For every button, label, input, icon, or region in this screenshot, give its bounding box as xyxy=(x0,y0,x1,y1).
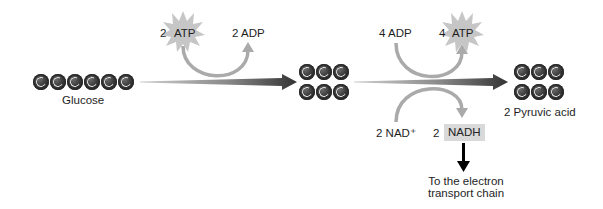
glucose-label: Glucose xyxy=(62,94,104,107)
carbon-symbol xyxy=(69,76,82,89)
carbon-symbol xyxy=(318,86,331,99)
pyruvic-acid-molecule-bottom xyxy=(514,84,564,100)
carbon-atom xyxy=(316,64,332,80)
carbon-atom xyxy=(50,74,66,90)
nadh-curve xyxy=(396,89,468,122)
nadh-count: 2 xyxy=(433,127,439,140)
carbon-symbol xyxy=(35,76,48,89)
carbon-atom xyxy=(514,84,530,100)
carbon-symbol xyxy=(335,86,348,99)
carbon-symbol xyxy=(301,86,314,99)
carbon-atom xyxy=(84,74,100,90)
etc-label-line2: transport chain xyxy=(424,187,508,200)
pyruvic-acid-label: 2 Pyruvic acid xyxy=(504,106,576,119)
atp-payoff-count: 4 xyxy=(439,27,445,40)
adp-input-label: 4 ADP xyxy=(379,27,412,40)
carbon-atom xyxy=(316,84,332,100)
intermediate-molecule-bottom xyxy=(299,84,349,100)
carbon-symbol xyxy=(103,76,116,89)
carbon-symbol xyxy=(533,66,546,79)
carbon-symbol xyxy=(86,76,99,89)
carbon-atom xyxy=(514,64,530,80)
carbon-atom xyxy=(101,74,117,90)
carbon-symbol xyxy=(533,86,546,99)
carbon-atom xyxy=(548,64,564,80)
atp-payoff-label: ATP xyxy=(452,27,474,40)
carbon-symbol xyxy=(550,66,563,79)
carbon-atom xyxy=(33,74,49,90)
carbon-atom xyxy=(333,64,349,80)
adp-output-label: 2 ADP xyxy=(232,27,265,40)
carbon-symbol xyxy=(120,76,133,89)
carbon-symbol xyxy=(516,86,529,99)
nad-plus-label: 2 NAD⁺ xyxy=(376,127,416,140)
carbon-atom xyxy=(548,84,564,100)
carbon-atom xyxy=(531,64,547,80)
carbon-symbol xyxy=(52,76,65,89)
carbon-symbol xyxy=(335,66,348,79)
pyruvic-acid-molecule-top xyxy=(514,64,564,80)
atp-investment-count: 2 xyxy=(160,27,166,40)
glucose-molecule xyxy=(33,74,134,90)
down-arrow-icon xyxy=(457,143,470,172)
carbon-symbol xyxy=(301,66,314,79)
atp-investment-curve xyxy=(183,42,254,76)
carbon-atom xyxy=(67,74,83,90)
carbon-symbol xyxy=(318,66,331,79)
carbon-atom xyxy=(531,84,547,100)
carbon-atom xyxy=(299,64,315,80)
carbon-atom xyxy=(333,84,349,100)
carbon-symbol xyxy=(516,66,529,79)
atp-investment-label: ATP xyxy=(174,27,196,40)
nadh-label: NADH xyxy=(444,124,485,141)
intermediate-molecule-top xyxy=(299,64,349,80)
carbon-atom xyxy=(299,84,315,100)
carbon-atom xyxy=(118,74,134,90)
glycolysis-diagram: Glucose 2 Pyruvic acid 2 ATP 2 ADP 4 ADP… xyxy=(0,0,603,209)
carbon-symbol xyxy=(550,86,563,99)
